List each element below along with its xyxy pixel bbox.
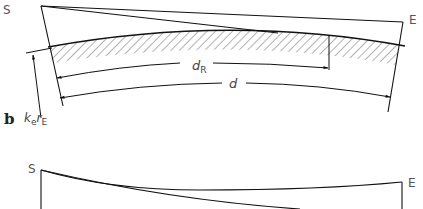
d-arrow-left bbox=[60, 83, 222, 98]
label-S-b: S bbox=[28, 162, 36, 176]
propagation-path-diagram: S E dR d kerE b S E bbox=[0, 0, 423, 209]
line-of-sight-b bbox=[41, 170, 402, 190]
d-arrow-right bbox=[246, 83, 390, 97]
panel-letter-b: b bbox=[4, 110, 15, 128]
earth-hatching bbox=[47, 30, 405, 66]
dR-arrow-left bbox=[57, 63, 180, 78]
label-d: d bbox=[229, 76, 238, 91]
right-radial-line bbox=[388, 22, 403, 112]
ray-to-horizon bbox=[41, 6, 278, 33]
label-E-a: E bbox=[409, 13, 417, 27]
dR-arrow-right bbox=[213, 63, 328, 68]
radius-tick bbox=[26, 48, 52, 53]
radius-arrow bbox=[33, 55, 41, 118]
label-S-a: S bbox=[3, 3, 11, 17]
panel-a: S E dR d kerE bbox=[3, 3, 417, 127]
line-of-sight bbox=[41, 6, 403, 22]
label-E-b: E bbox=[408, 176, 416, 190]
label-dR: dR bbox=[192, 58, 207, 75]
label-keRE: kerE bbox=[24, 111, 47, 127]
panel-b: b S E bbox=[4, 110, 416, 209]
